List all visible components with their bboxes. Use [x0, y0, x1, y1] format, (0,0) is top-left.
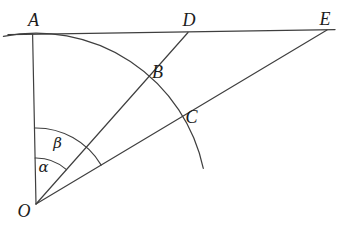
- label-point-D: D: [182, 10, 196, 30]
- geometry-diagram: A D E B C O β α: [0, 0, 350, 233]
- segment-OD-through-B: [36, 33, 188, 205]
- label-point-O: O: [18, 201, 31, 221]
- label-point-C: C: [185, 107, 198, 127]
- label-angle-alpha: α: [38, 158, 48, 176]
- segment-OE-through-C: [36, 30, 327, 204]
- label-point-B: B: [152, 62, 163, 82]
- label-angle-beta: β: [52, 134, 62, 152]
- figure-canvas: A D E B C O β α: [0, 0, 350, 233]
- label-point-E: E: [319, 9, 331, 29]
- label-point-A: A: [27, 10, 40, 30]
- segment-OA: [33, 34, 36, 204]
